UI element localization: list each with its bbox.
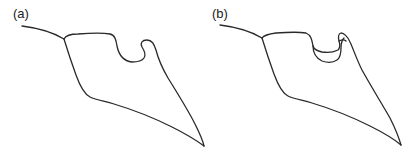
figure: (a) (b) bbox=[0, 0, 414, 153]
panel-b-top-edge bbox=[262, 32, 401, 145]
panel-a-top-edge bbox=[64, 33, 204, 146]
panel-b-lead-curve bbox=[220, 25, 262, 38]
figure-drawing bbox=[0, 0, 414, 153]
panel-b-left-bottom-edge bbox=[262, 38, 401, 145]
panel-a-drawing bbox=[22, 26, 204, 146]
panel-a-left-bottom-edge bbox=[64, 39, 204, 146]
panel-b-drawing bbox=[220, 25, 401, 145]
panel-a-lead-curve bbox=[22, 26, 64, 39]
